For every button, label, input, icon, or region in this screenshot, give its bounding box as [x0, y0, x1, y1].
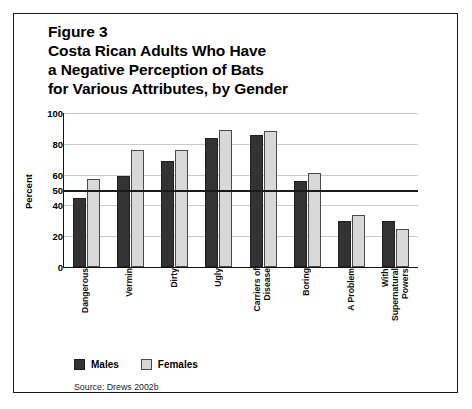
legend-label-males: Males [91, 359, 119, 370]
bar-males [73, 198, 86, 267]
figure-frame: Figure 3 Costa Rican Adults Who Have a N… [13, 13, 458, 393]
x-label-cell: Dirty [152, 268, 196, 348]
x-axis-tick-label: Vermin [124, 268, 134, 297]
bar-males [294, 181, 307, 267]
legend-item-females: Females [141, 359, 198, 370]
x-axis-tick-label: A Problem [346, 268, 356, 311]
legend-item-males: Males [74, 359, 119, 370]
bar-females [87, 179, 100, 267]
title-line-3: a Negative Perception of Bats [48, 60, 438, 79]
x-label-cell: With Supernatural Powers [373, 268, 417, 348]
chart-area: Percent 02040506080100 [14, 109, 459, 289]
plot-area [63, 113, 418, 268]
x-axis-category-labels: DangerousVerminDirtyUglyCarriers of Dise… [63, 268, 417, 348]
figure-title: Figure 3 Costa Rican Adults Who Have a N… [48, 22, 438, 98]
chart-legend: Males Females [74, 359, 198, 370]
y-tick-label: 60 [52, 169, 63, 180]
bar-females [352, 215, 365, 267]
x-axis-tick-label: Dirty [169, 268, 179, 288]
x-label-cell: Carriers of Disease [240, 268, 284, 348]
title-line-2: Costa Rican Adults Who Have [48, 41, 438, 60]
bar-females [175, 150, 188, 267]
title-line-4: for Various Attributes, by Gender [48, 79, 438, 98]
y-tick-label: 80 [52, 138, 63, 149]
x-label-cell: A Problem [329, 268, 373, 348]
x-axis-tick-label: With Supernatural Powers [380, 268, 410, 321]
bar-females [308, 173, 321, 267]
bar-males [382, 221, 395, 267]
x-axis-tick-label: Ugly [213, 268, 223, 287]
bar-females [264, 131, 277, 267]
bar-females [219, 130, 232, 267]
x-axis-tick-label: Boring [301, 268, 311, 296]
legend-swatch-females [141, 359, 152, 370]
legend-swatch-males [74, 359, 85, 370]
x-label-cell: Vermin [107, 268, 151, 348]
x-label-cell: Dangerous [63, 268, 107, 348]
y-tick-label: 100 [47, 108, 63, 119]
source-note: Source: Drews 2002b [74, 382, 159, 392]
bar-males [205, 138, 218, 267]
x-axis-tick-label: Dangerous [80, 268, 90, 313]
y-tick-label: 50 [52, 185, 63, 196]
legend-label-females: Females [158, 359, 198, 370]
title-line-1: Figure 3 [48, 22, 438, 41]
bar-males [250, 135, 263, 267]
x-label-cell: Boring [284, 268, 328, 348]
reference-line-50 [64, 190, 418, 192]
y-tick-label: 40 [52, 200, 63, 211]
bar-females [396, 229, 409, 268]
x-axis-tick-label: Carriers of Disease [252, 268, 272, 311]
bar-males [161, 161, 174, 267]
bar-males [338, 221, 351, 267]
bar-females [131, 150, 144, 267]
y-tick-label: 20 [52, 231, 63, 242]
x-label-cell: Ugly [196, 268, 240, 348]
y-axis-ticks: 02040506080100 [34, 109, 63, 267]
